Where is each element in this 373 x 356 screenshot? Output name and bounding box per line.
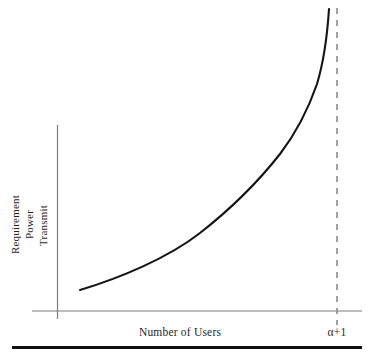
x-axis-label: Number of Users: [110, 326, 250, 338]
y-axis-label: Transmit Power Requirement: [6, 150, 52, 300]
x-axis-tick-label-alpha-plus-1: α+1: [313, 326, 361, 338]
figure-container: Transmit Power Requirement Number of Use…: [0, 0, 373, 356]
chart-canvas: [0, 0, 373, 356]
y-axis-label-line-3: Requirement: [9, 195, 22, 254]
y-axis-label-line-2: Power: [23, 210, 36, 239]
curve-transmit-power: [80, 9, 329, 290]
y-axis-label-line-1: Transmit: [37, 205, 50, 246]
